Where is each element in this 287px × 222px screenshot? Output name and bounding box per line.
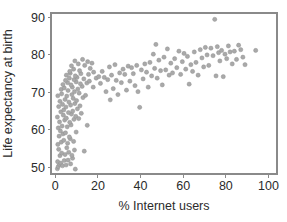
- data-point: [218, 59, 222, 63]
- data-point: [74, 130, 78, 134]
- data-point: [209, 46, 213, 50]
- data-point: [77, 69, 81, 73]
- data-point: [63, 78, 67, 82]
- data-point: [68, 69, 72, 73]
- data-point: [170, 71, 174, 75]
- data-point: [73, 167, 77, 171]
- data-point: [86, 60, 90, 64]
- data-point: [237, 43, 241, 47]
- data-point: [205, 53, 209, 57]
- data-point: [57, 134, 61, 138]
- data-point: [165, 47, 169, 51]
- data-point: [65, 94, 69, 98]
- data-point: [73, 59, 77, 63]
- data-point: [219, 48, 223, 52]
- data-point: [192, 50, 196, 54]
- data-point: [226, 44, 230, 48]
- data-point: [91, 85, 95, 89]
- data-point: [169, 61, 173, 65]
- data-point: [158, 69, 162, 73]
- data-point: [62, 138, 66, 142]
- x-axis-title: % Internet users: [118, 199, 209, 213]
- data-point: [215, 45, 219, 49]
- data-point: [223, 52, 227, 56]
- data-point: [68, 120, 72, 124]
- x-tick-label: 0: [52, 179, 59, 193]
- data-point: [90, 61, 94, 65]
- y-tick-label: 50: [31, 161, 45, 175]
- data-point: [83, 93, 87, 97]
- data-point: [160, 83, 164, 87]
- data-point: [72, 148, 76, 152]
- data-point: [221, 75, 225, 79]
- data-point: [64, 73, 68, 77]
- data-point: [187, 82, 191, 86]
- scatter-plot-figure: 5060708090 020406080100 % Internet users…: [0, 0, 287, 222]
- data-point: [157, 58, 161, 62]
- data-point: [179, 72, 183, 76]
- data-point: [123, 72, 127, 76]
- data-point: [82, 149, 86, 153]
- data-point: [65, 125, 69, 129]
- data-point: [98, 81, 102, 85]
- data-point: [63, 131, 67, 135]
- data-point: [85, 123, 89, 127]
- data-point: [72, 139, 76, 143]
- data-point: [177, 49, 181, 53]
- data-point: [151, 52, 155, 56]
- data-point: [173, 57, 177, 61]
- data-point: [180, 60, 184, 64]
- data-point: [64, 105, 68, 109]
- data-point: [82, 77, 86, 81]
- data-point: [56, 94, 60, 98]
- y-tick-label: 80: [31, 48, 45, 62]
- data-point: [78, 82, 82, 86]
- data-point: [119, 81, 123, 85]
- data-point: [114, 78, 118, 82]
- data-point: [202, 65, 206, 69]
- data-point: [230, 62, 234, 66]
- plot-canvas: 5060708090 020406080100 % Internet users…: [0, 0, 287, 222]
- data-point: [69, 64, 73, 68]
- x-tick-label: 20: [91, 179, 105, 193]
- data-point: [164, 68, 168, 72]
- data-point: [182, 51, 186, 55]
- data-point: [107, 65, 111, 69]
- data-point: [124, 88, 128, 92]
- data-point: [108, 98, 112, 102]
- data-point: [57, 105, 61, 109]
- data-point: [57, 147, 61, 151]
- data-point: [69, 83, 73, 87]
- data-point: [80, 57, 84, 61]
- data-point: [78, 104, 82, 108]
- data-point: [58, 99, 62, 103]
- data-point: [203, 45, 207, 49]
- data-point: [74, 99, 78, 103]
- data-point: [113, 63, 117, 67]
- data-point: [66, 141, 70, 145]
- data-point: [196, 73, 200, 77]
- data-point: [128, 79, 132, 83]
- data-point: [66, 111, 70, 115]
- data-point: [106, 78, 110, 82]
- data-point: [60, 124, 64, 128]
- data-point: [150, 74, 154, 78]
- data-point: [131, 72, 135, 76]
- data-point: [133, 84, 137, 88]
- data-point: [64, 163, 68, 167]
- data-point: [254, 48, 258, 52]
- data-point: [86, 72, 90, 76]
- x-tick-label: 40: [134, 179, 148, 193]
- data-point: [232, 49, 236, 53]
- data-point: [83, 63, 87, 67]
- data-point: [104, 90, 108, 94]
- x-axis-ticks: 020406080100: [52, 174, 279, 193]
- data-point: [184, 67, 188, 71]
- data-point: [144, 70, 148, 74]
- data-point: [241, 55, 245, 59]
- data-point: [67, 135, 71, 139]
- data-point: [69, 162, 73, 166]
- data-point: [239, 48, 243, 52]
- data-point: [185, 54, 189, 58]
- y-axis-title: Life expectancy at birth: [1, 29, 15, 158]
